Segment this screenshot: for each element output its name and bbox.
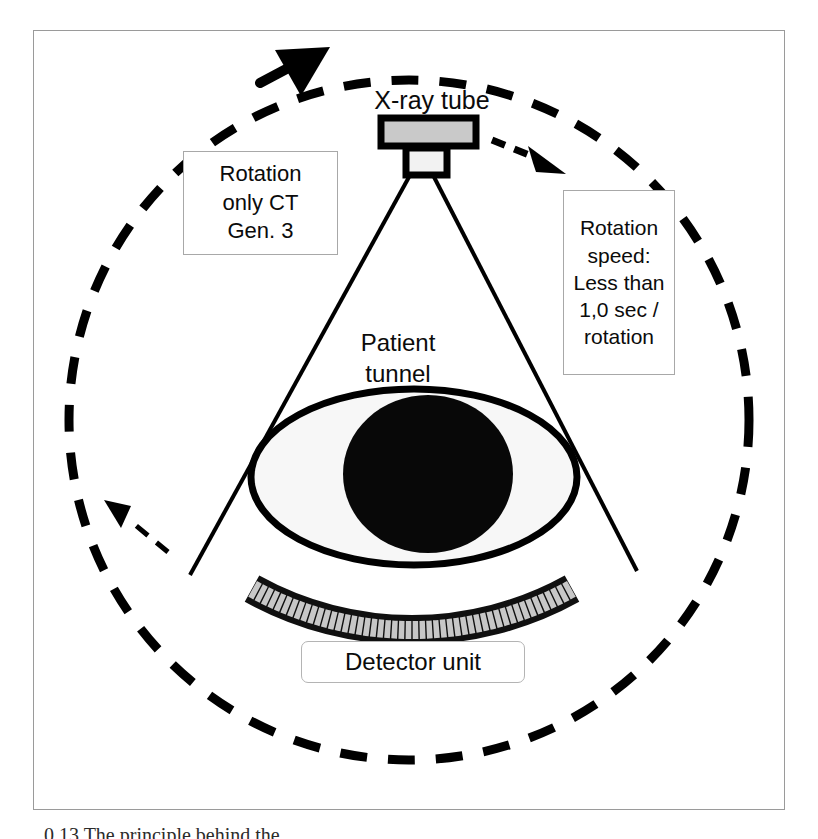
detector-cell bbox=[413, 621, 419, 639]
detector-unit-label: Detector unit bbox=[301, 641, 525, 683]
xray-tube-label: X-ray tube bbox=[352, 84, 512, 116]
rotation-direction-arrow-left bbox=[104, 500, 168, 552]
xray-tube-housing bbox=[381, 118, 476, 146]
detector-arc bbox=[245, 576, 580, 645]
figure-caption: 0.13 The principle behind the bbox=[44, 824, 744, 839]
tube-motion-arrow bbox=[492, 140, 566, 174]
callout-rotation-speed: Rotation speed: Less than 1,0 sec / rota… bbox=[563, 190, 675, 375]
arrow-tail bbox=[128, 519, 168, 552]
patient-cross-section bbox=[251, 389, 577, 565]
arrow-head bbox=[104, 500, 131, 528]
detector-cell bbox=[391, 620, 398, 638]
xray-tube-window bbox=[406, 148, 447, 175]
callout-rotation-only-ct: Rotation only CT Gen. 3 bbox=[183, 151, 338, 255]
arrow-head bbox=[528, 146, 566, 174]
patient-tunnel-label: Patient tunnel bbox=[318, 328, 478, 389]
detector-cell bbox=[406, 621, 412, 639]
patient-organ bbox=[343, 395, 513, 553]
figure-page: X-ray tube Patient tunnel Rotation only … bbox=[0, 0, 818, 839]
ct-scanner-diagram bbox=[0, 0, 818, 839]
detector-cell bbox=[398, 621, 404, 639]
detector-cell bbox=[426, 620, 433, 638]
arrow-tail bbox=[492, 140, 534, 157]
xray-tube-assembly bbox=[381, 118, 476, 175]
detector-cell bbox=[419, 621, 425, 639]
